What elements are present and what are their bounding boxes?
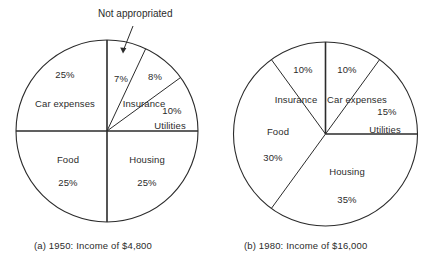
- pie-a-housing-label: Housing: [129, 155, 165, 165]
- pie-a-food-label: Food: [57, 155, 79, 165]
- pie-a-food-percent: 25%: [58, 178, 77, 188]
- pie-b-housing-percent: 35%: [337, 195, 356, 205]
- pie-b-utilities-percent: 15%: [377, 107, 396, 117]
- pie-b-car-expenses-percent: 10%: [337, 65, 356, 75]
- pie-a-not-appropriated-percent: 7%: [114, 74, 128, 84]
- pie-b-car-expenses-label: Car expenses: [327, 95, 387, 105]
- pie-b-food-label: Food: [267, 127, 289, 137]
- pie-b-insurance-label: Insurance: [275, 95, 318, 105]
- pie-a-utilities-label: Utilities: [154, 121, 186, 131]
- pie-a-insurance-label: Insurance: [123, 99, 166, 109]
- caption-pie-b: (b) 1980: Income of $16,000: [244, 240, 367, 251]
- pie-a-housing-percent: 25%: [137, 178, 156, 188]
- pie-chart-figure: Not appropriated 25% Car expenses 7% 8% …: [0, 0, 435, 263]
- pie-b-housing-label: Housing: [329, 167, 365, 177]
- pie-a-car-expenses-percent: 25%: [55, 70, 74, 80]
- pie-b-insurance-percent: 10%: [293, 65, 312, 75]
- not-appropriated-callout-label: Not appropriated: [98, 8, 173, 19]
- not-appropriated-leader-line: [124, 26, 134, 50]
- pie-b-utilities-label: Utilities: [369, 125, 401, 135]
- caption-pie-a: (a) 1950: Income of $4,800: [34, 240, 152, 251]
- pie-a-spoke-7pct: [107, 49, 146, 131]
- pie-a-insurance-percent: 8%: [148, 72, 162, 82]
- pie-b-food-percent: 30%: [263, 153, 282, 163]
- pie-a-utilities-percent: 10%: [162, 106, 181, 116]
- pie-b-spoke-60pct: [271, 134, 325, 208]
- not-appropriated-arrowhead-icon: [120, 48, 126, 54]
- pie-a-car-expenses-label: Car expenses: [35, 99, 95, 109]
